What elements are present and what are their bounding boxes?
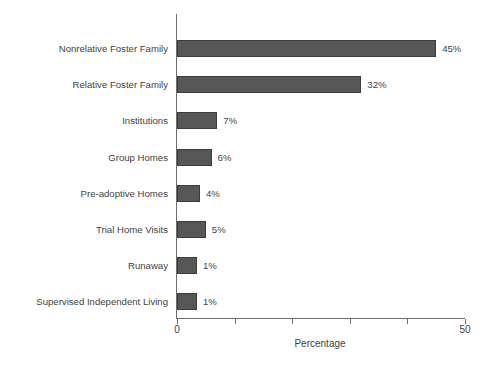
x-axis-title: Percentage [0,338,494,349]
bar-row: Group Homes6% [0,149,494,167]
category-label: Relative Foster Family [73,78,168,91]
bar-chart: 050 Nonrelative Foster Family45%Relative… [0,0,494,367]
x-axis-title-label: Percentage [294,338,345,349]
bar-row: Relative Foster Family32% [0,76,494,94]
bar-value-label: 45% [442,42,461,55]
bar-row: Institutions7% [0,112,494,130]
bar [177,76,361,93]
category-label: Supervised Independent Living [36,295,168,308]
x-axis-tick [235,319,236,324]
x-axis-tick [350,319,351,324]
bar [177,112,217,129]
bar-value-label: 1% [203,295,217,308]
bar-value-label: 4% [206,187,220,200]
category-label: Runaway [128,259,168,272]
bar-row: Runaway1% [0,257,494,275]
x-axis-tick [292,319,293,324]
x-axis-tick [407,319,408,324]
bar [177,149,212,166]
category-label: Group Homes [108,151,168,164]
bar-value-label: 32% [367,78,386,91]
bar-value-label: 6% [218,151,232,164]
bar [177,185,200,202]
category-label: Institutions [122,114,168,127]
category-label: Pre-adoptive Homes [81,187,168,200]
bar-row: Supervised Independent Living1% [0,293,494,311]
bar-row: Nonrelative Foster Family45% [0,40,494,58]
x-axis-tick-label: 50 [459,324,470,335]
category-label: Nonrelative Foster Family [59,42,168,55]
category-label: Trial Home Visits [96,223,168,236]
x-axis-line [176,318,465,319]
bar [177,221,206,238]
bar-value-label: 1% [203,259,217,272]
bar [177,257,197,274]
bar [177,40,436,57]
bar-row: Trial Home Visits5% [0,221,494,239]
x-axis-tick-label: 0 [174,324,180,335]
bar-value-label: 5% [212,223,226,236]
bar [177,293,197,310]
bar-value-label: 7% [223,114,237,127]
bar-row: Pre-adoptive Homes4% [0,185,494,203]
